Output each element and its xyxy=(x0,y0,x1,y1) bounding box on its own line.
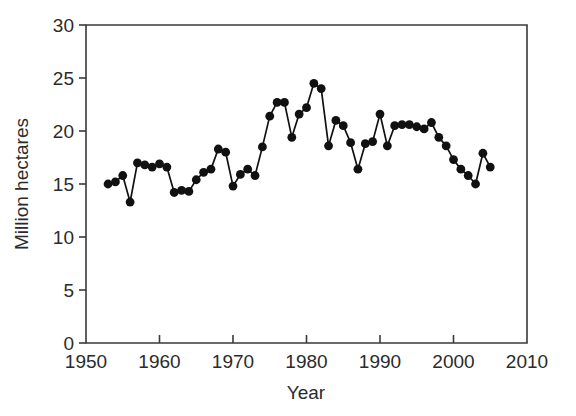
data-point xyxy=(265,112,274,121)
x-tick-label: 1950 xyxy=(65,351,107,372)
data-point xyxy=(251,171,260,180)
data-point xyxy=(376,110,385,119)
y-tick-label: 30 xyxy=(53,15,74,36)
data-point xyxy=(243,165,252,174)
data-point xyxy=(317,84,326,93)
data-point xyxy=(332,116,341,125)
data-point xyxy=(368,137,377,146)
data-point xyxy=(486,163,495,172)
data-point xyxy=(118,171,127,180)
x-tick-label: 2000 xyxy=(432,351,474,372)
data-point xyxy=(427,118,436,127)
data-point xyxy=(280,98,289,107)
data-point xyxy=(207,165,216,174)
data-point xyxy=(456,165,465,174)
y-axis-title: Million hectares xyxy=(11,118,32,250)
data-point xyxy=(346,138,355,147)
chart-container: 051015202530 195019601970198019902000201… xyxy=(0,0,576,416)
x-tick-label: 1980 xyxy=(285,351,327,372)
x-tick-label: 1960 xyxy=(138,351,180,372)
data-point xyxy=(434,133,443,142)
data-point xyxy=(287,133,296,142)
data-point xyxy=(185,187,194,196)
data-point xyxy=(324,141,333,150)
line-chart: 051015202530 195019601970198019902000201… xyxy=(0,0,576,416)
y-tick-label: 5 xyxy=(63,280,74,301)
data-point xyxy=(221,148,230,157)
data-point xyxy=(464,171,473,180)
data-point xyxy=(442,141,451,150)
data-point xyxy=(126,198,135,207)
data-point xyxy=(295,110,304,119)
data-point xyxy=(309,79,318,88)
data-point xyxy=(339,121,348,130)
y-tick-label: 25 xyxy=(53,68,74,89)
data-point xyxy=(354,165,363,174)
y-tick-label: 10 xyxy=(53,227,74,248)
data-point xyxy=(192,175,201,184)
x-tick-label: 1990 xyxy=(359,351,401,372)
x-tick-label: 2010 xyxy=(506,351,548,372)
y-tick-label: 20 xyxy=(53,121,74,142)
data-point xyxy=(383,141,392,150)
data-point xyxy=(229,182,238,191)
x-axis-title: Year xyxy=(287,382,326,403)
data-point xyxy=(479,149,488,158)
data-point xyxy=(111,177,120,186)
data-point xyxy=(449,155,458,164)
data-point xyxy=(258,143,267,152)
data-point xyxy=(471,180,480,189)
data-point xyxy=(236,170,245,179)
data-point xyxy=(420,124,429,133)
data-point xyxy=(302,103,311,112)
x-tick-label: 1970 xyxy=(212,351,254,372)
y-tick-label: 15 xyxy=(53,174,74,195)
data-point xyxy=(162,163,171,172)
